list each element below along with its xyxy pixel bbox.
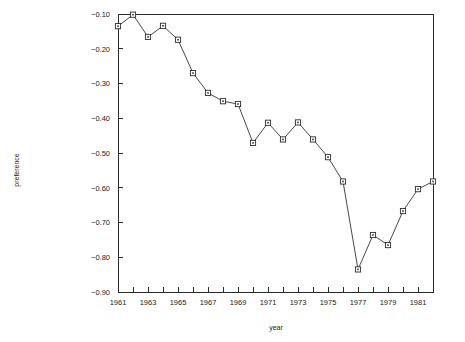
data-point-center	[327, 156, 329, 158]
x-axis-title: year	[269, 324, 283, 332]
x-tick-label: 1979	[380, 298, 397, 307]
x-tick-label: 1963	[140, 298, 157, 307]
y-axis-tick-labels: −0.10−0.20−0.30−0.40−0.50−0.60−0.70−0.80…	[91, 10, 110, 297]
figure-background	[0, 0, 465, 342]
data-point-center	[297, 122, 299, 124]
x-tick-label: 1971	[260, 298, 277, 307]
data-point-center	[387, 244, 389, 246]
data-point-center	[372, 234, 374, 236]
x-tick-label: 1961	[110, 298, 127, 307]
y-tick-label: −0.90	[91, 288, 110, 297]
x-tick-label: 1981	[410, 298, 427, 307]
y-tick-label: −0.50	[91, 149, 110, 158]
x-tick-label: 1973	[290, 298, 307, 307]
y-tick-label: −0.40	[91, 114, 110, 123]
x-tick-label: 1977	[350, 298, 367, 307]
data-point-center	[147, 36, 149, 38]
data-point-center	[117, 25, 119, 27]
y-tick-label: −0.10	[91, 10, 110, 19]
data-point-center	[357, 269, 359, 271]
data-point-center	[432, 181, 434, 183]
data-point-center	[282, 139, 284, 141]
data-point-center	[417, 188, 419, 190]
data-point-center	[192, 72, 194, 74]
y-tick-label: −0.80	[91, 253, 110, 262]
data-point-center	[402, 210, 404, 212]
data-point-center	[207, 92, 209, 94]
y-tick-label: −0.70	[91, 218, 110, 227]
x-tick-label: 1967	[200, 298, 217, 307]
preference-by-year-line-chart: −0.10−0.20−0.30−0.40−0.50−0.60−0.70−0.80…	[0, 0, 465, 342]
data-point-center	[267, 122, 269, 124]
y-tick-label: −0.60	[91, 184, 110, 193]
data-point-center	[132, 14, 134, 16]
data-point-center	[252, 142, 254, 144]
x-tick-label: 1975	[320, 298, 337, 307]
x-tick-label: 1965	[170, 298, 187, 307]
data-point-center	[222, 100, 224, 102]
y-axis-title: preference	[13, 153, 21, 187]
data-point-center	[177, 39, 179, 41]
y-tick-label: −0.30	[91, 79, 110, 88]
data-point-center	[162, 25, 164, 27]
data-point-center	[342, 181, 344, 183]
y-tick-label: −0.20	[91, 45, 110, 54]
x-tick-label: 1969	[230, 298, 247, 307]
data-point-center	[312, 139, 314, 141]
data-point-center	[237, 103, 239, 105]
